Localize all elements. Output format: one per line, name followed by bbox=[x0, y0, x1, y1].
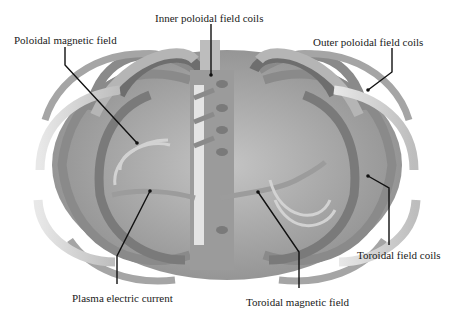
label-poloidal-magnetic-field: Poloidal magnetic field bbox=[14, 34, 117, 46]
label-outer-poloidal-field-coils: Outer poloidal field coils bbox=[313, 36, 423, 48]
label-inner-poloidal-field-coils: Inner poloidal field coils bbox=[155, 12, 263, 24]
label-toroidal-magnetic-field: Toroidal magnetic field bbox=[246, 296, 349, 308]
torus-body bbox=[38, 40, 416, 281]
tokamak-diagram bbox=[0, 0, 454, 321]
label-toroidal-field-coils: Toroidal field coils bbox=[357, 249, 441, 261]
label-plasma-electric-current: Plasma electric current bbox=[72, 292, 173, 304]
